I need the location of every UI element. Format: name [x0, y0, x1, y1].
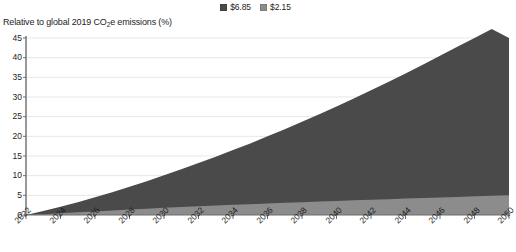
x-tick-label: 2050 [496, 206, 516, 226]
x-tick-label: 2042 [358, 206, 378, 226]
x-tick-label: 2040 [324, 206, 344, 226]
x-tick-label: 2030 [151, 206, 171, 226]
x-tick-label: 2026 [82, 206, 102, 226]
x-tick-label: 2038 [289, 206, 309, 226]
x-tick-label: 2022 [13, 206, 33, 226]
x-tick-label: 2044 [393, 206, 413, 226]
x-tick-label: 2048 [462, 206, 482, 226]
x-tick-label: 2024 [48, 206, 68, 226]
x-tick-label: 2036 [255, 206, 275, 226]
x-tick-label: 2028 [117, 206, 137, 226]
x-tick-label: 2046 [427, 206, 447, 226]
x-tick-label: 2034 [220, 206, 240, 226]
x-tick-label: 2032 [186, 206, 206, 226]
